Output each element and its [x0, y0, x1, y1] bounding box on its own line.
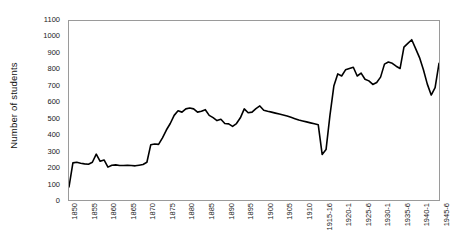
- x-tick-label: 1865: [127, 203, 135, 220]
- x-tick-label: 1935-6: [401, 203, 409, 226]
- student-count-line: [69, 40, 439, 187]
- x-tick-label: 1850: [68, 203, 76, 220]
- x-tick-label: 1905: [283, 203, 291, 220]
- y-tick-label: 0: [56, 197, 60, 205]
- x-axis-tick-labels: 1850185518601865187018751880188518901895…: [68, 203, 440, 252]
- x-tick-label-text: 1890: [228, 203, 236, 220]
- x-tick-label: 1885: [205, 203, 213, 220]
- series-svg: [69, 21, 439, 200]
- x-tick-label-text: 1915-16: [326, 203, 334, 231]
- x-tick-label-text: 1905: [286, 203, 294, 220]
- y-tick-label: 800: [47, 66, 60, 74]
- y-axis-title: Number of students: [2, 0, 24, 210]
- x-tick-label-text: 1895: [247, 203, 255, 220]
- x-tick-label: 1920-1: [342, 203, 350, 226]
- y-tick-label: 200: [47, 164, 60, 172]
- x-tick-label-text: 1855: [91, 203, 99, 220]
- x-tick-label: 1910: [303, 203, 311, 220]
- x-tick-label: 1890: [225, 203, 233, 220]
- x-tick-label-text: 1920-1: [345, 203, 353, 226]
- x-tick-label-text: 1870: [149, 203, 157, 220]
- y-axis-title-label: Number of students: [8, 62, 19, 149]
- x-tick-label-text: 1850: [71, 203, 79, 220]
- y-tick-label: 400: [47, 131, 60, 139]
- x-tick-label: 1880: [185, 203, 193, 220]
- y-tick-label: 500: [47, 115, 60, 123]
- x-tick-label-text: 1885: [208, 203, 216, 220]
- x-tick-label-text: 1945-6: [443, 203, 451, 226]
- x-tick-label: 1940-1: [420, 203, 428, 226]
- x-tick-label-text: 1900: [267, 203, 275, 220]
- x-tick-label: 1900: [264, 203, 272, 220]
- x-tick-label: 1945-6: [440, 203, 448, 226]
- y-tick-label: 1100: [44, 16, 60, 24]
- x-tick-label-text: 1875: [169, 203, 177, 220]
- x-tick-label-text: 1925-6: [365, 203, 373, 226]
- x-tick-label-text: 1865: [130, 203, 138, 220]
- x-tick-label: 1930-1: [381, 203, 389, 226]
- x-tick-label-text: 1880: [188, 203, 196, 220]
- plot-area: [68, 20, 440, 201]
- x-tick-label-text: 1860: [110, 203, 118, 220]
- y-tick-label: 700: [47, 82, 60, 90]
- y-tick-label: 100: [47, 181, 60, 189]
- x-tick-label-text: 1910: [306, 203, 314, 220]
- y-tick-label: 600: [47, 99, 60, 107]
- y-axis-tick-labels: 110010009008007006005004003002001000: [28, 0, 64, 252]
- y-tick-label: 300: [47, 148, 60, 156]
- x-tick-label: 1855: [88, 203, 96, 220]
- x-tick-label-text: 1935-6: [404, 203, 412, 226]
- y-tick-label: 900: [47, 49, 60, 57]
- x-tick-label: 1915-16: [323, 203, 331, 231]
- x-tick-label-text: 1940-1: [423, 203, 431, 226]
- x-tick-label: 1860: [107, 203, 115, 220]
- y-tick-label: 1000: [43, 33, 60, 41]
- x-tick-label: 1925-6: [362, 203, 370, 226]
- x-tick-label-text: 1930-1: [384, 203, 392, 226]
- x-tick-label: 1875: [166, 203, 174, 220]
- chart-container: Number of students 110010009008007006005…: [0, 0, 459, 252]
- x-tick-label: 1895: [244, 203, 252, 220]
- x-tick-label: 1870: [146, 203, 154, 220]
